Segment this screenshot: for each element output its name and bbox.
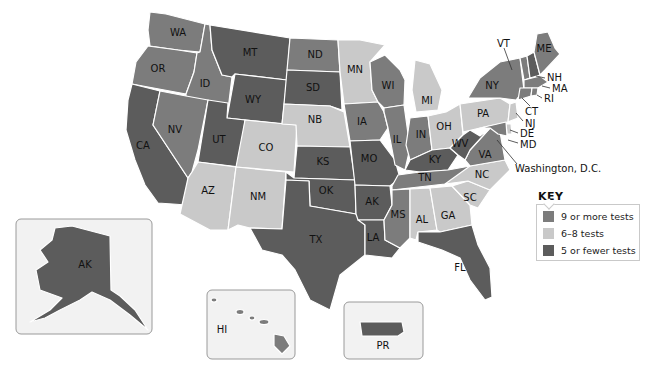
us-map: WAORCAIDNVMTWYUTAZCONMNDSDNBKSOKTXMNIAMO…	[0, 0, 652, 369]
state-label-nm: NM	[250, 191, 266, 202]
state-label-mi: MI	[421, 95, 433, 106]
state-label-nh: NH	[547, 72, 562, 83]
inset-label-hi: HI	[217, 324, 227, 335]
state-label-mo: MO	[361, 153, 378, 164]
legend-label-high: 9 or more tests	[561, 211, 634, 222]
state-label-az: AZ	[201, 185, 215, 196]
state-ny[interactable]	[468, 58, 524, 100]
state-label-ak: AK	[365, 196, 379, 207]
state-label-vt: VT	[497, 38, 511, 49]
state-label-pa: PA	[477, 108, 489, 119]
state-nj[interactable]	[508, 102, 518, 122]
state-label-ny: NY	[485, 80, 499, 91]
legend-swatch-mid	[543, 228, 554, 239]
state-label-ga: GA	[441, 210, 456, 221]
state-label-ok: OK	[319, 185, 334, 196]
state-label-washingtondc: Washington, D.C.	[515, 163, 601, 174]
state-label-va: VA	[478, 149, 491, 160]
state-label-nb: NB	[308, 114, 322, 125]
state-label-fl: FL	[454, 262, 466, 273]
inset-label-ak: AK	[78, 259, 92, 270]
state-label-ia: IA	[357, 116, 367, 127]
legend-item-low: 5 or fewer tests	[543, 244, 636, 257]
state-label-nd: ND	[307, 49, 322, 60]
state-label-ky: KY	[429, 154, 442, 165]
state-label-oh: OH	[436, 121, 451, 132]
state-label-la: LA	[367, 232, 380, 243]
state-label-mt: MT	[243, 47, 259, 58]
state-label-ca: CA	[136, 140, 150, 151]
state-label-ri: RI	[544, 93, 554, 104]
state-label-ms: MS	[391, 209, 406, 220]
state-label-mn: MN	[347, 64, 363, 75]
state-ct[interactable]	[518, 88, 532, 100]
state-label-nv: NV	[168, 124, 182, 135]
state-label-ut: UT	[212, 134, 226, 145]
state-label-ma: MA	[552, 83, 568, 94]
state-label-wy: WY	[245, 94, 262, 105]
state-label-wv: WV	[452, 138, 469, 149]
legend: 9 or more tests 6–8 tests 5 or fewer tes…	[536, 204, 640, 261]
state-label-wi: WI	[382, 80, 395, 91]
state-label-wa: WA	[170, 27, 186, 38]
state-label-sd: SD	[306, 82, 320, 93]
legend-label-low: 5 or fewer tests	[561, 245, 636, 256]
state-label-de: DE	[520, 128, 534, 139]
state-pr[interactable]	[360, 322, 404, 336]
state-label-me: ME	[537, 43, 552, 54]
state-label-or: OR	[151, 63, 166, 74]
state-label-al: AL	[416, 214, 429, 225]
inset-label-pr: PR	[377, 340, 390, 351]
state-ri[interactable]	[531, 88, 538, 96]
legend-swatch-low	[543, 245, 554, 256]
legend-label-mid: 6–8 tests	[561, 228, 604, 239]
state-label-co: CO	[259, 142, 274, 153]
state-label-md: MD	[520, 139, 537, 150]
state-label-id: ID	[200, 78, 211, 89]
state-label-nc: NC	[475, 169, 489, 180]
legend-swatch-high	[543, 211, 554, 222]
state-label-ct: CT	[525, 106, 539, 117]
state-label-il: IL	[393, 134, 402, 145]
state-label-ks: KS	[317, 156, 330, 167]
legend-item-mid: 6–8 tests	[543, 227, 604, 240]
state-label-sc: SC	[463, 192, 476, 203]
legend-item-high: 9 or more tests	[543, 210, 634, 223]
state-label-tx: TX	[309, 234, 323, 245]
state-label-tn: TN	[417, 172, 432, 183]
state-label-in: IN	[416, 129, 426, 140]
